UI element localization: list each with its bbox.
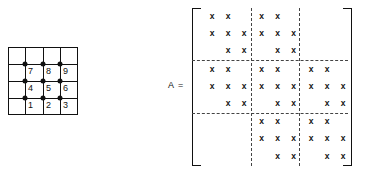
matrix-entry-r4-c8: x [319,61,335,78]
left-bracket [192,8,201,166]
matrix-entry-r1-c5: x [270,8,286,25]
matrix-entry-r5-c5: x [270,78,286,95]
matrix-entry-r6-c2: x [220,95,236,112]
figure-container: 1 2 3 4 5 6 7 8 9 A = xxxxxxxxxxxxxxxxxx… [0,0,370,173]
matrix-entry-r2-c1: x [204,25,220,42]
matrix-cells: xxxxxxxxxxxxxxxxxxxxxxxxxxxxxxxxxxxxxxxx… [204,8,348,166]
matrix-entry-r2-c4: x [254,25,270,42]
equation-label: A = [168,80,184,90]
matrix-entry-r9-c6: x [286,148,302,165]
grid-node-label-9: 9 [63,67,68,76]
grid-node-dot [23,62,28,67]
matrix-entry-r5-c9: x [335,78,351,95]
matrix-entry-r7-c4: x [254,113,270,130]
grid-node-dot [58,79,63,84]
grid-node-label-4: 4 [28,84,33,93]
matrix-entry-r3-c2: x [220,42,236,59]
matrix-entry-r9-c8: x [319,148,335,165]
grid-node-label-2: 2 [46,101,51,110]
grid-node-dot [23,96,28,101]
matrix-entry-r1-c1: x [204,8,220,25]
matrix-entry-r5-c8: x [319,78,335,95]
matrix-entry-r6-c9: x [335,95,351,112]
grid-node-label-7: 7 [28,67,33,76]
node-grid: 1 2 3 4 5 6 7 8 9 [8,47,78,115]
grid-node-dot [58,62,63,67]
matrix-entry-r2-c5: x [270,25,286,42]
matrix-entry-r4-c5: x [270,61,286,78]
matrix-entry-r6-c5: x [270,95,286,112]
matrix-entry-r1-c2: x [220,8,236,25]
matrix-entry-r8-c8: x [319,130,335,147]
grid-node-label-6: 6 [63,84,68,93]
matrix-entry-r4-c1: x [204,61,220,78]
matrix-entry-r2-c2: x [220,25,236,42]
matrix-entry-r5-c3: x [236,78,252,95]
matrix-entry-r9-c5: x [270,148,286,165]
matrix-entry-r8-c5: x [270,130,286,147]
matrix-entry-r7-c8: x [319,113,335,130]
matrix-entry-r6-c8: x [319,95,335,112]
matrix-entry-r8-c7: x [303,130,319,147]
grid-node-dot [41,62,46,67]
matrix-entry-r1-c4: x [254,8,270,25]
matrix-entry-r8-c9: x [335,130,351,147]
grid-node-dot [58,96,63,101]
matrix-entry-r5-c4: x [254,78,270,95]
matrix-entry-r5-c1: x [204,78,220,95]
matrix-entry-r7-c5: x [270,113,286,130]
matrix-entry-r8-c4: x [254,130,270,147]
matrix-entry-r5-c7: x [303,78,319,95]
matrix-entry-r4-c7: x [303,61,319,78]
matrix-entry-r2-c6: x [286,25,302,42]
matrix-entry-r5-c6: x [286,78,302,95]
matrix-entry-r6-c6: x [286,95,302,112]
grid-node-label-8: 8 [46,67,51,76]
matrix-entry-r8-c6: x [286,130,302,147]
grid-node-dot [23,79,28,84]
grid-node-dot [41,96,46,101]
grid-node-label-1: 1 [28,101,33,110]
grid-node-label-3: 3 [63,101,68,110]
matrix-entry-r5-c2: x [220,78,236,95]
matrix-entry-r9-c9: x [335,148,351,165]
matrix-entry-r3-c3: x [236,42,252,59]
matrix-entry-r3-c6: x [286,42,302,59]
sparsity-matrix: xxxxxxxxxxxxxxxxxxxxxxxxxxxxxxxxxxxxxxxx… [192,8,352,166]
matrix-equation: A = xxxxxxxxxxxxxxxxxxxxxxxxxxxxxxxxxxxx… [168,4,368,170]
matrix-entry-r6-c3: x [236,95,252,112]
matrix-entry-r4-c2: x [220,61,236,78]
matrix-entry-r3-c5: x [270,42,286,59]
grid-node-dot [41,79,46,84]
matrix-entry-r4-c4: x [254,61,270,78]
matrix-entry-r7-c7: x [303,113,319,130]
grid-node-label-5: 5 [46,84,51,93]
matrix-entry-r2-c3: x [236,25,252,42]
